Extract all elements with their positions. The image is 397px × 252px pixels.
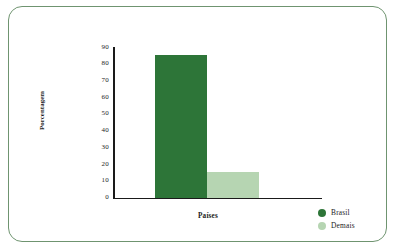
y-tick-label: 40 bbox=[93, 127, 109, 134]
legend-swatch-circle-icon bbox=[318, 209, 326, 217]
bar-demais bbox=[207, 172, 259, 197]
y-axis-title: Porcentagem bbox=[38, 66, 45, 156]
y-tick-label: 50 bbox=[93, 110, 109, 117]
y-tick-label: 80 bbox=[93, 60, 109, 67]
y-tick-label: 70 bbox=[93, 77, 109, 84]
legend-item-label: Brasil bbox=[331, 208, 350, 217]
chart-figure-frame: 0102030405060708090 Porcentagem Países B… bbox=[8, 6, 387, 242]
x-axis-title: Países bbox=[148, 212, 268, 220]
legend-item-demais[interactable]: Demais bbox=[318, 219, 386, 232]
plot-area: 0102030405060708090 Porcentagem Países B… bbox=[9, 7, 388, 243]
y-tick-label: 0 bbox=[93, 194, 109, 201]
y-tick-label: 60 bbox=[93, 94, 109, 101]
y-tick-label: 10 bbox=[93, 177, 109, 184]
chart-legend: BrasilDemais bbox=[318, 206, 386, 232]
y-tick-label: 20 bbox=[93, 161, 109, 168]
legend-item-brasil[interactable]: Brasil bbox=[318, 206, 386, 219]
y-axis-tick-labels: 0102030405060708090 bbox=[93, 47, 109, 199]
y-tick-label: 90 bbox=[93, 44, 109, 51]
legend-item-label: Demais bbox=[331, 221, 355, 230]
bars-layer bbox=[114, 47, 323, 198]
y-tick-label: 30 bbox=[93, 144, 109, 151]
bar-brasil bbox=[155, 55, 207, 197]
legend-swatch-circle-icon bbox=[318, 222, 326, 230]
x-axis-line bbox=[113, 198, 322, 200]
